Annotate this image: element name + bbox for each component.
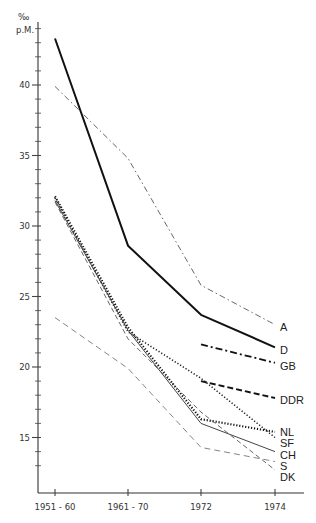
series-line-ch	[55, 201, 275, 452]
x-tick-label: 1972	[190, 502, 212, 512]
series-end-labels: ADGBDDRNLSFCHSDK	[280, 321, 304, 483]
series-line-ddr	[201, 381, 275, 398]
y-tick-label: 40	[19, 80, 30, 90]
y-tick-label: 20	[19, 362, 30, 372]
y-tick-label: 35	[19, 151, 30, 161]
series-label-d: D	[280, 344, 288, 356]
x-tick-label: 1961 - 70	[108, 502, 149, 512]
series-label-a: A	[280, 321, 288, 333]
y-tick-label: 15	[19, 433, 30, 443]
y-unit-pm: p.M.	[16, 25, 34, 35]
x-tick-label: 1951 - 60	[35, 502, 76, 512]
series-line-nl	[55, 196, 275, 432]
series-line-a	[55, 86, 275, 324]
x-tick-label: 1974	[264, 502, 286, 512]
series-label-sf: SF	[280, 437, 294, 449]
infant-mortality-line-chart: 1520253035401951 - 601961 - 7019721974 A…	[0, 0, 316, 523]
series-label-gb: GB	[280, 360, 296, 372]
series-lines	[55, 39, 275, 470]
y-tick-label: 25	[19, 292, 30, 302]
series-line-sf	[55, 198, 275, 438]
series-label-ddr: DDR	[280, 394, 304, 406]
axes: 1520253035401951 - 601961 - 7019721974	[19, 22, 304, 512]
series-line-s	[55, 202, 275, 470]
series-label-dk: DK	[280, 471, 296, 483]
y-unit-permille: ‰	[18, 12, 29, 22]
series-line-gb	[201, 344, 275, 362]
series-line-d	[55, 39, 275, 348]
y-tick-label: 30	[19, 221, 30, 231]
chart-plot-area: 1520253035401951 - 601961 - 7019721974 A…	[0, 0, 316, 523]
